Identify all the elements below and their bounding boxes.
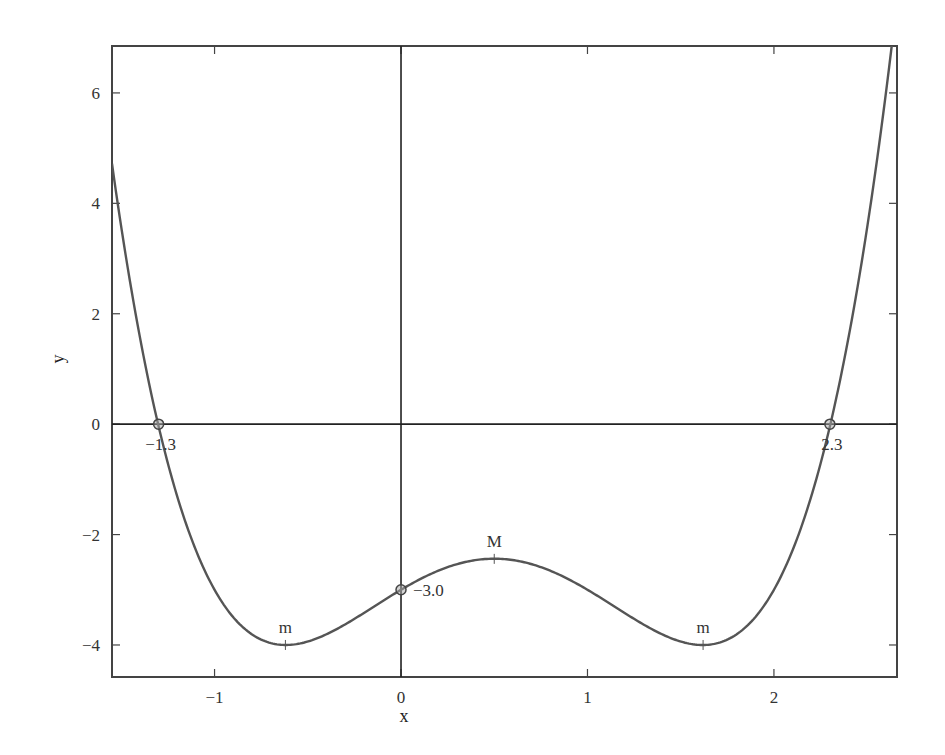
y-axis-label: y bbox=[48, 355, 68, 364]
local-min-label: m bbox=[279, 618, 292, 637]
y-tick-label: 4 bbox=[92, 194, 101, 213]
x-tick-label: 2 bbox=[770, 688, 779, 707]
local-max-label: M bbox=[487, 532, 502, 551]
x-tick-label: −1 bbox=[206, 688, 224, 707]
x-tick-label: 1 bbox=[583, 688, 592, 707]
local-min-label: m bbox=[696, 618, 709, 637]
marked-point bbox=[396, 585, 406, 595]
root-label: −1.3 bbox=[145, 435, 176, 454]
marked-point bbox=[825, 419, 835, 429]
y-tick-label: 0 bbox=[92, 415, 101, 434]
x-tick-label: 0 bbox=[397, 688, 406, 707]
y-tick-label: 6 bbox=[92, 84, 101, 103]
y-tick-label: −4 bbox=[82, 636, 101, 655]
intercept-label: −3.0 bbox=[413, 581, 444, 600]
marked-point bbox=[154, 419, 164, 429]
y-tick-label: −2 bbox=[82, 526, 100, 545]
root-label: 2.3 bbox=[821, 435, 842, 454]
x-axis-label: x bbox=[400, 706, 409, 726]
function-plot: −1012 −4−20246 −1.32.3−3.0Mmm x y bbox=[0, 0, 945, 755]
y-tick-label: 2 bbox=[92, 305, 101, 324]
